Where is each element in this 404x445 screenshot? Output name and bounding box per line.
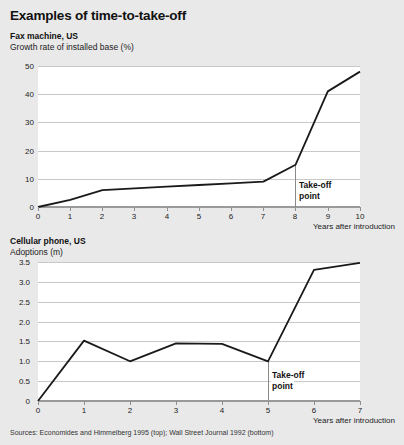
page-title: Examples of time-to-take-off <box>10 8 186 23</box>
panel-1-xtick-7: 7 <box>253 212 273 221</box>
panel-1-ytick-50: 50 <box>8 62 34 71</box>
panel-1-xaxis-label: Years after introduction <box>313 222 395 231</box>
panel-2-xtick-0: 0 <box>28 406 48 415</box>
panel-2-xtickmark-6 <box>314 401 315 405</box>
panel-2-title: Cellular phone, US <box>10 236 86 246</box>
panel-1-xtickmark-0 <box>38 207 39 211</box>
panel-1-ytick-20: 20 <box>8 147 34 156</box>
panel-2-xtick-3: 3 <box>166 406 186 415</box>
panel-2-xtickmark-0 <box>38 401 39 405</box>
sources-note: Sources: Economides and Himmelberg 1995 … <box>10 429 274 436</box>
panel-1-xtick-8: 8 <box>285 212 305 221</box>
panel-2-ytick-2.0: 2.0 <box>4 318 30 327</box>
panel-1-xtickmark-5 <box>199 207 200 211</box>
panel-1-subtitle: Growth rate of installed base (%) <box>10 42 134 52</box>
panel-1-xtick-5: 5 <box>189 212 209 221</box>
panel-1-ytick-40: 40 <box>8 90 34 99</box>
panel-2-subtitle: Adoptions (m) <box>10 247 63 257</box>
panel-2-ytick-1.5: 1.5 <box>4 337 30 346</box>
panel-2-series-line <box>38 262 360 401</box>
panel-2-xtickmark-1 <box>84 401 85 405</box>
panel-2-xtickmark-2 <box>130 401 131 405</box>
panel-1-xtick-6: 6 <box>221 212 241 221</box>
panel-2-xtickmark-3 <box>176 401 177 405</box>
panel-2-xtick-7: 7 <box>350 406 370 415</box>
panel-1-xtickmark-6 <box>231 207 232 211</box>
panel-2-ytick-0: 0 <box>4 397 30 406</box>
panel-1-xtickmark-2 <box>102 207 103 211</box>
panel-1-xtick-4: 4 <box>157 212 177 221</box>
panel-1-xtickmark-7 <box>263 207 264 211</box>
panel-1-xtick-9: 9 <box>318 212 338 221</box>
panel-2-xtickmark-5 <box>268 401 269 405</box>
panel-1-xtickmark-4 <box>167 207 168 211</box>
panel-1-xtickmark-1 <box>70 207 71 211</box>
panel-1-ytick-30: 30 <box>8 118 34 127</box>
panel-2-xtick-2: 2 <box>120 406 140 415</box>
panel-1-xtickmark-9 <box>328 207 329 211</box>
panel-1-ytick-10: 10 <box>8 175 34 184</box>
panel-2-xtick-4: 4 <box>212 406 232 415</box>
panel-2-ytick-2.5: 2.5 <box>4 298 30 307</box>
panel-2-xtick-6: 6 <box>304 406 324 415</box>
panel-2-xaxis-label: Years after introduction <box>313 416 395 425</box>
panel-1-xtick-3: 3 <box>124 212 144 221</box>
panel-1-ytick-0: 0 <box>8 203 34 212</box>
panel-1-takeoff-label-line1: Take-off <box>298 180 332 190</box>
panel-2-takeoff-label-line2: point <box>271 381 294 391</box>
panel-2-ytick-1.0: 1.0 <box>4 357 30 366</box>
panel-1-xtickmark-3 <box>134 207 135 211</box>
chart-figure: Examples of time-to-take-off Fax machine… <box>0 0 404 445</box>
panel-2-ytick-3.0: 3.0 <box>4 278 30 287</box>
panel-1-takeoff-label-line2: point <box>298 191 321 201</box>
panel-2-plot-area <box>38 262 360 401</box>
panel-1-xtickmark-8 <box>295 207 296 211</box>
panel-2-xtick-1: 1 <box>74 406 94 415</box>
panel-1-title: Fax machine, US <box>10 31 78 41</box>
panel-1-xtick-10: 10 <box>350 212 370 221</box>
panel-2-takeoff-label-line1: Take-off <box>271 370 305 380</box>
panel-2-xtickmark-7 <box>360 401 361 405</box>
panel-1-xtick-1: 1 <box>60 212 80 221</box>
panel-2-ytick-0.5: 0.5 <box>4 377 30 386</box>
panel-2-xtickmark-4 <box>222 401 223 405</box>
panel-1-xtickmark-10 <box>360 207 361 211</box>
panel-2-ytick-3.5: 3.5 <box>4 258 30 267</box>
panel-1-xtick-2: 2 <box>92 212 112 221</box>
panel-1-xtick-0: 0 <box>28 212 48 221</box>
panel-2-xtick-5: 5 <box>258 406 278 415</box>
